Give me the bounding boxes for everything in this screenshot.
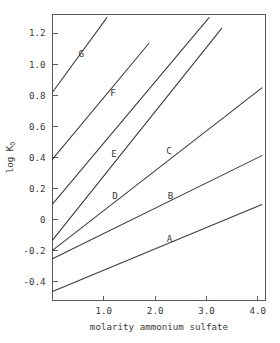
series-label-c: C (166, 145, 172, 156)
series-labels: ABCDEFG (78, 48, 173, 244)
y-tick-label-4: 0.4 (29, 152, 46, 163)
x-tick-label-1: 2.0 (147, 305, 164, 316)
y-axis-title-main: log K (4, 145, 15, 173)
y-tick-label-5: 0.2 (29, 183, 46, 194)
series-line-b (53, 156, 262, 259)
series-label-f: F (110, 87, 116, 98)
y-axis-title-subscript: D (9, 142, 17, 146)
x-tick-label-2: 3.0 (198, 305, 215, 316)
axis-titles: molarity ammonium sulfatelog KD (4, 142, 228, 332)
series-line-e (53, 18, 210, 205)
series-line-c (53, 88, 262, 251)
y-tick-label-3: 0.6 (29, 121, 46, 132)
x-axis-title: molarity ammonium sulfate (90, 321, 228, 332)
y-tick-label-7: -0.2 (23, 245, 45, 256)
chart-plot-area: 1.02.03.04.0 1.21.00.80.60.40.20-0.2-0.4… (0, 0, 280, 343)
y-tick-label-2: 0.8 (29, 90, 46, 101)
series-line-a (53, 205, 262, 292)
chart-figure: 1.02.03.04.0 1.21.00.80.60.40.20-0.2-0.4… (0, 0, 280, 343)
y-tick-label-8: -0.4 (23, 276, 46, 287)
series-line-f (53, 43, 149, 159)
series-label-d: D (112, 190, 118, 201)
x-tick-labels: 1.02.03.04.0 (96, 305, 267, 316)
series-line-d (53, 28, 222, 240)
series-label-a: A (167, 233, 173, 244)
series-label-g: G (78, 48, 84, 59)
y-tick-labels: 1.21.00.80.60.40.20-0.2-0.4 (23, 27, 46, 287)
series-label-e: E (111, 148, 117, 159)
y-tick-label-6: 0 (40, 214, 46, 225)
y-axis-title: log KD (4, 142, 17, 174)
x-tick-label-0: 1.0 (96, 305, 113, 316)
y-tick-label-0: 1.2 (29, 27, 46, 38)
y-tick-label-1: 1.0 (29, 59, 46, 70)
axes (53, 15, 266, 301)
series-label-b: B (168, 190, 174, 201)
axis-frame (53, 15, 266, 301)
x-tick-label-3: 4.0 (249, 305, 266, 316)
